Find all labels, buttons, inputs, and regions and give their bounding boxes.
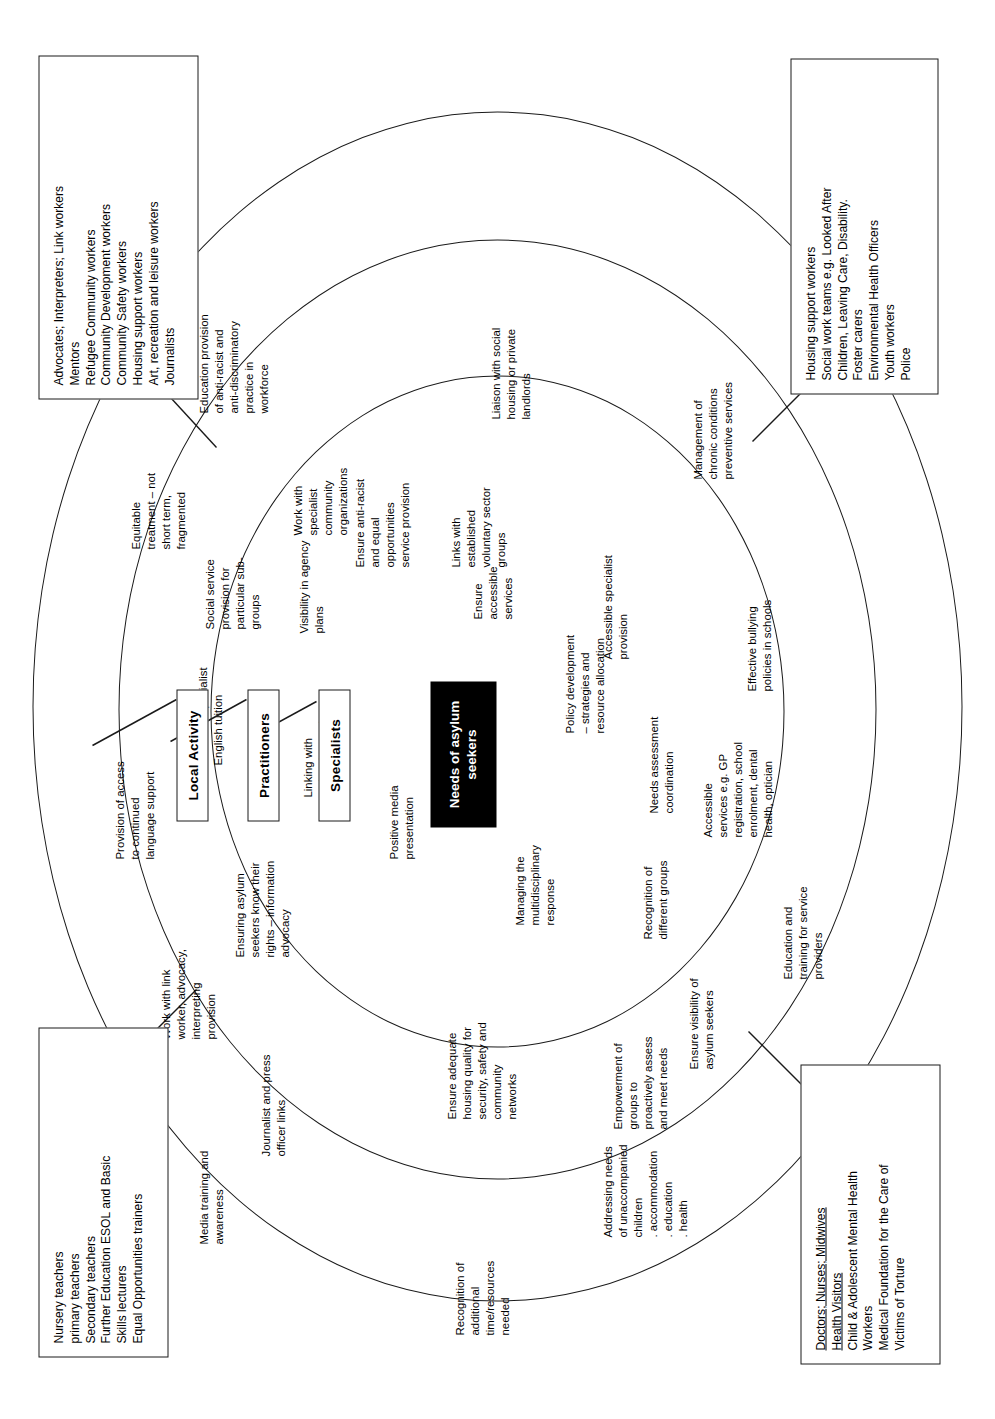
role-line: Skills lecturers bbox=[114, 1041, 130, 1343]
community-roles-box[interactable]: Advocates; Interpreters; Link workers Me… bbox=[38, 55, 198, 399]
role-line: Workers bbox=[860, 1078, 876, 1350]
diagram-canvas: Local Activity Practitioners Specialists… bbox=[0, 0, 995, 1419]
node-social-service-provision-subgroups: Social service provision for particular … bbox=[202, 507, 262, 629]
leader-line-local-activity bbox=[90, 635, 180, 755]
node-ensure-visibility-asylum-seekers: Ensure visibility of asylum seekers bbox=[686, 943, 716, 1069]
ring-label-local-activity-text: Local Activity bbox=[185, 710, 200, 800]
node-ensuring-asylum-seekers-rights: Ensuring asylum seekers know their right… bbox=[232, 825, 292, 957]
node-needs-assessment-coordination: Needs assessment coordination bbox=[646, 685, 676, 813]
role-line: Medical Foundation for the Care of bbox=[876, 1078, 892, 1350]
role-line: Doctors; Nurses; Midwives bbox=[813, 1078, 829, 1350]
role-line: Mentors bbox=[67, 69, 83, 385]
role-line: Advocates; Interpreters; Link workers bbox=[51, 69, 67, 385]
ring-label-practitioners-text: Practitioners bbox=[256, 712, 271, 797]
ring-label-local-activity[interactable]: Local Activity bbox=[176, 689, 208, 821]
role-line: primary teachers bbox=[67, 1041, 83, 1343]
role-line: Child & Adolescent Mental Health bbox=[845, 1078, 861, 1350]
node-liaison-social-housing: Liaison with social housing or private l… bbox=[488, 287, 533, 419]
role-line: Children, Leaving Care, Disability. bbox=[835, 72, 851, 380]
node-ensure-accessible-services: Ensure accessible services bbox=[470, 523, 515, 619]
social-roles-box[interactable]: Housing support workers Social work team… bbox=[790, 58, 938, 394]
role-line: Art, recreation and leisure workers bbox=[146, 69, 162, 385]
role-line: Community Safety workers bbox=[114, 69, 130, 385]
role-line: Social work teams e.g. Looked After bbox=[819, 72, 835, 380]
node-education-training-providers: Education and training for service provi… bbox=[780, 851, 825, 979]
node-managing-multidisciplinary-response: Managing the multidisciplinary response bbox=[512, 801, 557, 925]
role-line: Housing support workers bbox=[803, 72, 819, 380]
node-visibility-agency-plans: Visibility in agency plans bbox=[296, 511, 326, 633]
node-positive-media-presentation: Positive media presentation bbox=[386, 733, 416, 859]
role-line: Environmental Health Officers bbox=[866, 72, 882, 380]
role-line: Foster carers bbox=[850, 72, 866, 380]
node-recognition-different-groups: Recognition of different groups bbox=[640, 815, 670, 939]
role-line: Secondary teachers bbox=[83, 1041, 99, 1343]
node-ensure-anti-racist-equal-opportunities: Ensure anti-racist and equal opportuniti… bbox=[352, 445, 412, 567]
ring-label-specialists[interactable]: Specialists bbox=[318, 689, 350, 821]
node-accessible-services-gp: Accessible services e.g. GP registration… bbox=[700, 707, 775, 837]
node-policy-development-strategies: Policy development – strategies and reso… bbox=[562, 599, 607, 733]
role-line: Refugee Community workers bbox=[83, 69, 99, 385]
node-ensure-adequate-housing: Ensure adequate housing quality for secu… bbox=[444, 989, 519, 1119]
node-media-training: Media training and awareness bbox=[196, 1116, 226, 1244]
node-management-chronic-conditions: Management of chronic conditions prevent… bbox=[690, 345, 735, 479]
role-line: Equal Opportunities trainers bbox=[130, 1041, 146, 1343]
role-line: Police bbox=[898, 72, 914, 380]
node-work-with-link-worker: Work with link worker, advocacy, interpr… bbox=[158, 909, 218, 1039]
node-education-provision-anti-racist: Education provision of anti-racist and a… bbox=[196, 277, 271, 413]
node-effective-bullying-policies: Effective bullying policies in schools bbox=[744, 565, 774, 691]
center-node-text: Needs of asylum seekers bbox=[446, 700, 480, 807]
node-empowerment-of-groups: Empowerment of groups to proactively ass… bbox=[610, 1007, 670, 1129]
health-roles-box[interactable]: Doctors; Nurses; Midwives Health Visitor… bbox=[800, 1064, 940, 1364]
node-equitable-treatment: Equitable treatment – not short term, fr… bbox=[128, 431, 188, 549]
node-journalist-press-links: Journalist and press officer links bbox=[258, 1016, 288, 1156]
ring-label-specialists-text: Specialists bbox=[327, 719, 342, 792]
education-roles-box[interactable]: Nursery teachers primary teachers Second… bbox=[38, 1027, 168, 1357]
role-line: Health Visitors bbox=[829, 1078, 845, 1350]
role-line: Community Development workers bbox=[98, 69, 114, 385]
role-line: Youth workers bbox=[882, 72, 898, 380]
role-line: Housing support workers bbox=[130, 69, 146, 385]
node-recognition-additional-time: Recognition of additional time/resources… bbox=[452, 1215, 512, 1335]
role-line: Victims of Torture bbox=[892, 1078, 908, 1350]
ring-label-practitioners[interactable]: Practitioners bbox=[247, 689, 279, 821]
role-line: Nursery teachers bbox=[51, 1041, 67, 1343]
role-line: Further Education ESOL and Basic bbox=[98, 1041, 114, 1343]
center-node-needs-of-asylum-seekers[interactable]: Needs of asylum seekers bbox=[430, 681, 496, 827]
role-line: Journalists bbox=[162, 69, 178, 385]
